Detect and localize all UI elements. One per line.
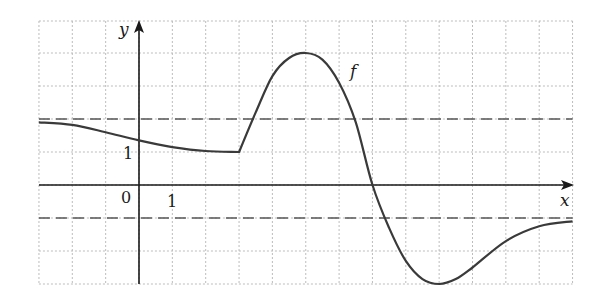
origin-label: 0 [121, 188, 131, 207]
function-graph: y x f 0 1 1 [0, 0, 600, 296]
x-axis-label: x [560, 190, 570, 210]
x-tick-label-1: 1 [167, 192, 177, 211]
grid [39, 21, 573, 284]
function-label: f [348, 61, 359, 81]
y-tick-label-1: 1 [123, 144, 133, 163]
y-axis-label: y [118, 19, 129, 39]
